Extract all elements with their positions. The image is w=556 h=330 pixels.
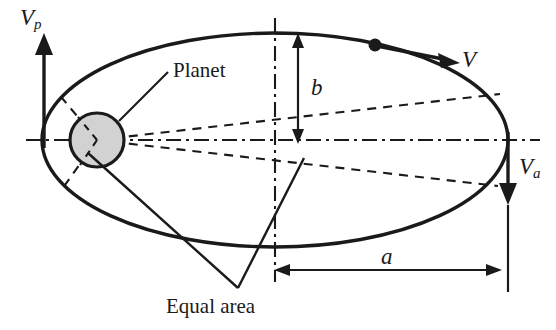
velocity-vector-vp [35,33,53,148]
label-semi-minor-axis: b [311,76,323,99]
label-orbital-velocity: V [462,48,476,71]
label-aphelion-velocity-subscript: a [533,165,541,181]
dimension-b [275,33,310,144]
dimension-a-arrowhead-left [274,264,290,276]
velocity-vector-vp-arrowhead [35,33,53,55]
label-perihelion-velocity: Vp [20,6,42,32]
label-orbital-velocity-symbol: V [462,47,476,72]
label-semi-major-axis-symbol: a [381,244,393,269]
dimension-a-arrowhead-right [486,264,502,276]
label-aphelion-velocity-symbol: V [519,154,533,179]
dimension-b-arrowhead-bottom [292,129,304,144]
label-semi-major-axis: a [381,245,393,268]
equal-area-leader-left [88,153,238,288]
label-perihelion-velocity-symbol: V [20,5,34,30]
planet-label-leader-line [119,72,168,121]
velocity-vector-va [499,132,517,292]
equal-area-leader-right [238,158,304,288]
velocity-vector-v-shaft [377,46,448,60]
label-aphelion-velocity: Va [519,155,541,181]
label-perihelion-velocity-subscript: p [34,16,42,32]
orbit-diagram: Vp Va V b a Planet Equal area [0,0,556,330]
sector-edge-lower-right [97,140,498,186]
label-planet: Planet [173,60,226,81]
velocity-vector-va-arrowhead [499,183,517,205]
label-semi-minor-axis-symbol: b [311,75,323,100]
label-equal-area: Equal area [166,296,255,317]
velocity-vector-v-arrowhead [438,53,460,68]
